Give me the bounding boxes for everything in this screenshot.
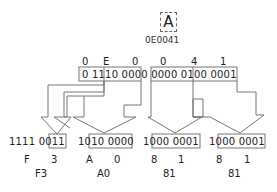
binary-prefix: 10 [209, 136, 222, 147]
output-hex-digit: 3 [51, 154, 57, 165]
output-byte: 81 [163, 168, 176, 179]
output-binary-byte-2: 1010 0000 [78, 136, 134, 147]
binary-payload: 011 [45, 136, 65, 147]
binary-prefix: 10 [143, 136, 156, 147]
output-byte: 81 [228, 168, 241, 179]
output-hex-digit: 1 [244, 154, 250, 165]
output-hex-digit: 8 [216, 154, 222, 165]
bit-mapping-arrows [0, 0, 277, 192]
binary-prefix: 10 [78, 136, 91, 147]
output-binary-byte-3: 1000 0001 [143, 136, 199, 147]
output-hex-digit: A [86, 154, 93, 165]
output-hex-digit: 1 [178, 154, 184, 165]
binary-payload: 10 0000 [91, 136, 134, 147]
binary-payload: 00 0001 [222, 136, 265, 147]
output-hex-digit: 8 [151, 154, 157, 165]
binary-prefix: 1111 0 [9, 136, 45, 147]
output-binary-byte-1: 1111 0011 [9, 136, 65, 147]
output-byte: A0 [97, 168, 110, 179]
binary-payload: 00 0001 [156, 136, 199, 147]
output-hex-digit: 0 [114, 154, 120, 165]
output-binary-byte-4: 1000 0001 [209, 136, 265, 147]
output-hex-digit: F [24, 154, 30, 165]
output-byte: F3 [35, 168, 47, 179]
